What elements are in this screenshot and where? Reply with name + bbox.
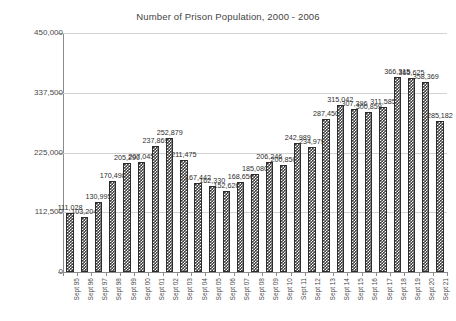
x-tick-label: Sept 13	[329, 278, 336, 300]
y-tick-label: 450,000	[5, 28, 63, 37]
bar[interactable]	[138, 162, 145, 272]
x-tick-mark	[333, 272, 334, 276]
x-tick-mark	[419, 272, 420, 276]
x-tick-mark	[276, 272, 277, 276]
bar-value-label: 168,656	[228, 172, 254, 181]
bar[interactable]	[322, 119, 329, 272]
x-tick-mark	[134, 272, 135, 276]
bar-value-label: 130,995	[86, 192, 112, 201]
x-tick-label: Sept 05	[215, 278, 222, 300]
bar[interactable]	[351, 109, 358, 272]
bar-value-label: 170,498	[100, 171, 126, 180]
x-tick-mark	[433, 272, 434, 276]
x-tick-label: Sept 01	[158, 278, 165, 300]
y-tick-label: 337,500	[5, 88, 63, 97]
x-tick-mark	[248, 272, 249, 276]
bar[interactable]	[237, 182, 244, 272]
bar[interactable]	[294, 143, 301, 272]
bar[interactable]	[66, 213, 73, 272]
bar-value-label: 237,869	[142, 136, 168, 145]
bar[interactable]	[123, 163, 130, 272]
bar[interactable]	[209, 186, 216, 272]
plot-area: 111,028103,204130,995170,498205,290207,0…	[63, 33, 447, 272]
x-tick-label: Sept 02	[172, 278, 179, 300]
x-tick-mark	[63, 272, 64, 276]
bar[interactable]	[223, 191, 230, 272]
x-tick-label: Sept 09	[272, 278, 279, 300]
x-tick-mark	[106, 272, 107, 276]
bar[interactable]	[194, 183, 201, 272]
x-tick-mark	[447, 272, 448, 276]
bar-value-label: 200,850	[270, 155, 296, 164]
x-tick-mark	[362, 272, 363, 276]
x-tick-mark	[91, 272, 92, 276]
bar-series: 111,028103,204130,995170,498205,290207,0…	[63, 33, 447, 272]
x-tick-mark	[376, 272, 377, 276]
y-tick-label: 0	[5, 267, 63, 276]
bar[interactable]	[436, 121, 443, 272]
x-tick-label: Sept 95	[73, 278, 80, 300]
chart-container: Number of Prison Population, 2000 - 2006…	[0, 0, 456, 321]
x-tick-label: Sept 04	[201, 278, 208, 300]
bar[interactable]	[81, 217, 88, 272]
x-axis: Sept 95Sept 96Sept 97Sept 98Sept 99Sept …	[63, 272, 447, 321]
bar[interactable]	[152, 146, 159, 272]
x-tick-label: Sept 99	[130, 278, 137, 300]
x-tick-label: Sept 07	[243, 278, 250, 300]
bar-value-label: 103,204	[71, 207, 97, 216]
y-tick-label: 112,500	[5, 207, 63, 216]
chart-title: Number of Prison Population, 2000 - 2006	[0, 11, 456, 22]
x-tick-label: Sept 08	[258, 278, 265, 300]
x-tick-label: Sept 14	[343, 278, 350, 300]
bar-value-label: 152,626	[214, 181, 240, 190]
x-tick-mark	[305, 272, 306, 276]
x-tick-label: Sept 17	[386, 278, 393, 300]
y-tick-label: 225,000	[5, 148, 63, 157]
bar-value-label: 285,182	[427, 111, 453, 120]
x-tick-mark	[148, 272, 149, 276]
bar[interactable]	[95, 202, 102, 272]
x-tick-mark	[234, 272, 235, 276]
bar[interactable]	[280, 165, 287, 272]
x-tick-mark	[347, 272, 348, 276]
x-tick-label: Sept 12	[314, 278, 321, 300]
x-tick-label: Sept 97	[101, 278, 108, 300]
x-tick-label: Sept 16	[371, 278, 378, 300]
x-tick-mark	[120, 272, 121, 276]
x-tick-label: Sept 20	[428, 278, 435, 300]
x-tick-label: Sept 21	[442, 278, 449, 300]
bar[interactable]	[308, 147, 315, 272]
x-tick-label: Sept 11	[300, 278, 307, 300]
bar[interactable]	[394, 77, 401, 272]
x-tick-mark	[219, 272, 220, 276]
bar[interactable]	[251, 174, 258, 272]
x-tick-mark	[390, 272, 391, 276]
bar-value-label: 234,979	[299, 137, 325, 146]
bar-value-label: 358,369	[413, 72, 439, 81]
x-tick-label: Sept 06	[229, 278, 236, 300]
x-tick-mark	[177, 272, 178, 276]
bar[interactable]	[337, 105, 344, 272]
bar-value-label: 207,045	[128, 152, 154, 161]
bar-value-label: 211,475	[171, 150, 196, 159]
x-tick-label: Sept 00	[144, 278, 151, 300]
bar[interactable]	[109, 181, 116, 272]
x-tick-label: Sept 18	[400, 278, 407, 300]
bar-value-label: 185,080	[242, 164, 268, 173]
bar-value-label: 287,450	[313, 109, 339, 118]
bar[interactable]	[379, 107, 386, 272]
x-tick-label: Sept 96	[87, 278, 94, 300]
x-tick-mark	[205, 272, 206, 276]
x-tick-mark	[163, 272, 164, 276]
x-tick-label: Sept 19	[414, 278, 421, 300]
x-tick-label: Sept 10	[286, 278, 293, 300]
x-tick-label: Sept 98	[115, 278, 122, 300]
bar[interactable]	[408, 78, 415, 272]
x-tick-mark	[319, 272, 320, 276]
x-tick-mark	[291, 272, 292, 276]
x-tick-label: Sept 03	[186, 278, 193, 300]
bar[interactable]	[365, 112, 372, 272]
x-tick-label: Sept 15	[357, 278, 364, 300]
x-tick-mark	[262, 272, 263, 276]
bar[interactable]	[266, 162, 273, 272]
